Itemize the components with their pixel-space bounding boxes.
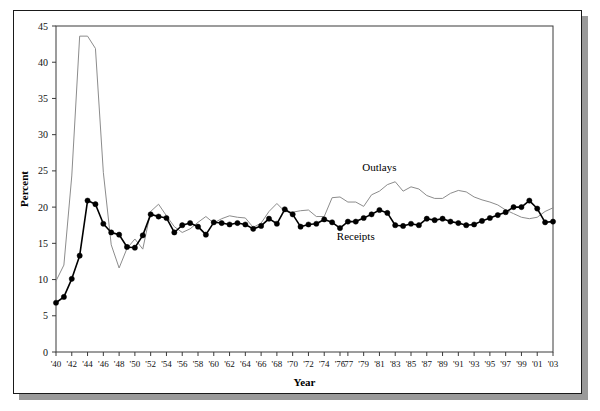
data-point-receipts xyxy=(140,233,145,238)
y-axis-tick-label: 20 xyxy=(38,202,48,213)
data-point-receipts xyxy=(535,206,540,211)
data-point-receipts xyxy=(408,221,413,226)
data-point-receipts xyxy=(243,222,248,227)
x-axis-tick-label: '01 xyxy=(532,359,543,369)
chart-figure: 051015202530354045'40'42'44'46'48'50'52'… xyxy=(0,0,600,411)
x-axis-tick-label: '79 xyxy=(358,359,369,369)
x-axis-tick-label: '03 xyxy=(548,359,559,369)
data-point-receipts xyxy=(274,221,279,226)
data-point-receipts xyxy=(85,198,90,203)
x-axis-tick-label: '74 xyxy=(319,359,330,369)
x-axis-tick-label: '48 xyxy=(114,359,125,369)
data-point-receipts xyxy=(543,220,548,225)
data-point-receipts xyxy=(203,232,208,237)
data-point-receipts xyxy=(298,224,303,229)
data-point-receipts xyxy=(251,226,256,231)
data-point-receipts xyxy=(369,212,374,217)
series-line-receipts xyxy=(56,201,553,303)
x-axis-tick-label: '66 xyxy=(256,359,267,369)
data-point-receipts xyxy=(330,220,335,225)
series-label-receipts: Receipts xyxy=(337,230,375,242)
data-point-receipts xyxy=(211,220,216,225)
data-point-receipts xyxy=(361,215,366,220)
data-point-receipts xyxy=(53,300,58,305)
data-point-receipts xyxy=(69,276,74,281)
data-point-receipts xyxy=(195,224,200,229)
data-point-receipts xyxy=(393,223,398,228)
x-axis-tick-label: '70 xyxy=(287,359,298,369)
data-point-receipts xyxy=(101,221,106,226)
data-point-receipts xyxy=(282,207,287,212)
y-axis-tick-label: 15 xyxy=(38,238,48,249)
x-axis-tick-label: '95 xyxy=(485,359,496,369)
x-axis-tick-label: '50 xyxy=(130,359,141,369)
line-chart-svg: 051015202530354045'40'42'44'46'48'50'52'… xyxy=(0,0,600,411)
series-line-outlays xyxy=(56,36,553,281)
x-axis-tick-label: '81 xyxy=(374,359,385,369)
data-point-receipts xyxy=(164,215,169,220)
x-axis-tick-label: '52 xyxy=(145,359,156,369)
y-axis-tick-label: 25 xyxy=(38,165,48,176)
x-axis-tick-label: '83 xyxy=(390,359,401,369)
data-point-receipts xyxy=(227,222,232,227)
y-axis-tick-label: 30 xyxy=(38,129,48,140)
y-axis-tick-label: 5 xyxy=(43,310,48,321)
data-point-receipts xyxy=(479,218,484,223)
data-point-receipts xyxy=(188,220,193,225)
x-axis-tick-label: '62 xyxy=(224,359,235,369)
data-point-receipts xyxy=(377,207,382,212)
data-point-receipts xyxy=(266,216,271,221)
x-axis-tick-label: '97 xyxy=(500,359,511,369)
data-point-receipts xyxy=(487,215,492,220)
data-point-receipts xyxy=(527,198,532,203)
data-point-receipts xyxy=(290,212,295,217)
data-point-receipts xyxy=(109,230,114,235)
data-point-receipts xyxy=(172,230,177,235)
data-point-receipts xyxy=(353,219,358,224)
data-point-receipts xyxy=(93,202,98,207)
data-point-receipts xyxy=(148,212,153,217)
data-point-receipts xyxy=(322,217,327,222)
data-point-receipts xyxy=(132,245,137,250)
data-point-receipts xyxy=(472,222,477,227)
series-label-outlays: Outlays xyxy=(362,161,396,173)
y-axis-tick-label: 10 xyxy=(38,274,48,285)
data-point-receipts xyxy=(440,216,445,221)
data-point-receipts xyxy=(495,212,500,217)
x-axis-tick-label: '85 xyxy=(406,359,417,369)
x-axis-tick-label: '89 xyxy=(437,359,448,369)
data-point-receipts xyxy=(550,219,555,224)
data-point-receipts xyxy=(219,220,224,225)
data-point-receipts xyxy=(259,223,264,228)
plot-frame xyxy=(56,26,553,352)
x-axis-tick-label: '40 xyxy=(51,359,62,369)
x-axis-tick-label: '99 xyxy=(516,359,527,369)
x-axis-tick-label: '42 xyxy=(66,359,77,369)
x-axis-tick-label: '44 xyxy=(82,359,93,369)
x-axis-tick-label: '93 xyxy=(469,359,480,369)
data-point-receipts xyxy=(156,214,161,219)
y-axis-tick-label: 40 xyxy=(38,57,48,68)
data-point-receipts xyxy=(117,232,122,237)
data-point-receipts xyxy=(416,223,421,228)
y-axis-title: Percent xyxy=(18,171,30,207)
data-point-receipts xyxy=(61,294,66,299)
data-point-receipts xyxy=(448,219,453,224)
data-point-receipts xyxy=(314,221,319,226)
data-point-receipts xyxy=(519,205,524,210)
x-axis-tick-label: '58 xyxy=(193,359,204,369)
y-axis-tick-label: 35 xyxy=(38,93,48,104)
data-point-receipts xyxy=(456,220,461,225)
data-point-receipts xyxy=(385,210,390,215)
y-axis-tick-label: 45 xyxy=(38,21,48,32)
data-point-receipts xyxy=(503,210,508,215)
data-point-receipts xyxy=(511,205,516,210)
x-axis-tick-label: '56 xyxy=(177,359,188,369)
data-point-receipts xyxy=(235,220,240,225)
x-axis-tick-label: '46 xyxy=(98,359,109,369)
data-point-receipts xyxy=(345,219,350,224)
x-axis-tick-label: '60 xyxy=(208,359,219,369)
y-axis-tick-label: 0 xyxy=(43,347,48,358)
x-axis-tick-label: '87 xyxy=(421,359,432,369)
x-axis-tick-label: '91 xyxy=(453,359,464,369)
